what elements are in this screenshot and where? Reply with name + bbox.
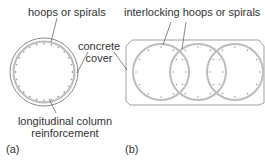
hoop-right [207,44,263,100]
hoop-left [133,44,189,100]
concrete-cover-line2: cover [78,52,120,64]
reinforcement-line2: reinforcement [10,127,120,139]
hoop-middle [170,44,226,100]
concrete-cover-line1: concrete [78,40,120,52]
interlocking-hoops-label: interlocking hoops or spirals [124,6,260,18]
longitudinal-bars [15,43,74,102]
rectangular-column-section [114,22,264,105]
figure-a-label: (a) [6,143,19,155]
figure-b-label: (b) [125,143,138,155]
hoops-label-a: hoops or spirals [28,6,106,18]
circular-column-section [10,18,88,113]
longitudinal-reinforcement-label: longitudinal column reinforcement [10,115,120,139]
concrete-cover-label: concrete cover [78,40,120,64]
reinforcement-line1: longitudinal column [10,115,120,127]
longitudinal-bars [135,46,261,98]
hoop-spiral [14,42,75,103]
